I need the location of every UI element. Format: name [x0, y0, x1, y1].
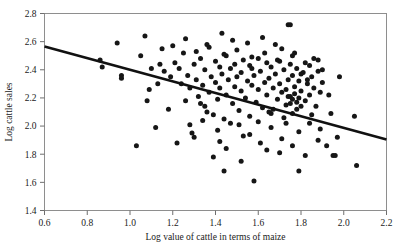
data-point	[290, 97, 295, 102]
data-point	[234, 48, 239, 53]
data-point	[275, 97, 280, 102]
data-point	[215, 128, 220, 133]
data-point	[333, 153, 338, 158]
y-axis-ticks	[40, 14, 45, 211]
data-point	[277, 150, 282, 155]
data-point	[228, 66, 233, 71]
data-point	[196, 94, 201, 99]
data-point	[284, 102, 289, 107]
data-point	[266, 110, 271, 115]
data-point	[247, 114, 252, 119]
data-point	[307, 93, 312, 98]
data-point	[279, 46, 284, 51]
data-point	[245, 79, 250, 84]
data-point	[264, 147, 269, 152]
data-point	[153, 125, 158, 130]
data-point	[311, 86, 316, 91]
data-point	[219, 31, 224, 36]
data-point	[170, 43, 175, 48]
data-point	[303, 98, 308, 103]
x-tick-label: 1.0	[124, 218, 136, 228]
data-point	[256, 119, 261, 124]
data-point	[262, 50, 267, 55]
data-point	[318, 90, 323, 95]
data-point	[269, 125, 274, 130]
data-point	[249, 66, 254, 71]
data-point	[324, 143, 329, 148]
data-point	[354, 163, 359, 168]
data-point	[251, 178, 256, 183]
data-point	[290, 143, 295, 148]
data-point	[142, 34, 147, 39]
data-point	[264, 60, 269, 65]
data-point	[194, 77, 199, 82]
data-point	[328, 111, 333, 116]
y-tick-label: 2.0	[25, 121, 37, 131]
data-point	[224, 146, 229, 151]
data-point	[204, 110, 209, 115]
data-point	[241, 133, 246, 138]
data-point	[230, 101, 235, 106]
data-point	[149, 66, 154, 71]
data-point	[313, 104, 318, 109]
data-point	[279, 136, 284, 141]
y-tick-label: 2.4	[25, 65, 37, 75]
data-point	[335, 135, 340, 140]
data-point	[245, 41, 250, 46]
data-point	[138, 53, 143, 58]
data-point	[200, 83, 205, 88]
data-point	[198, 101, 203, 106]
data-point	[277, 81, 282, 86]
scatter-plot-figure: 0.60.81.01.21.41.61.82.02.2 1.41.61.82.0…	[0, 0, 399, 250]
plot-canvas: 0.60.81.01.21.41.61.82.02.2 1.41.61.82.0…	[0, 0, 399, 250]
data-point	[181, 50, 186, 55]
data-point	[172, 60, 177, 65]
data-point	[258, 140, 263, 145]
y-tick-label: 1.4	[25, 206, 37, 216]
data-point	[239, 70, 244, 75]
data-point	[198, 56, 203, 61]
data-point	[217, 86, 222, 91]
data-point	[290, 73, 295, 78]
data-point	[183, 36, 188, 41]
data-point	[185, 73, 190, 78]
y-tick-label: 2.6	[25, 37, 37, 47]
data-point	[294, 107, 299, 112]
data-point	[226, 77, 231, 82]
data-point	[275, 57, 280, 62]
data-point	[337, 74, 342, 79]
x-axis-ticks	[45, 211, 387, 216]
data-point	[189, 131, 194, 136]
data-point	[258, 69, 263, 74]
data-point	[162, 69, 167, 74]
x-tick-label: 2.2	[381, 218, 393, 228]
data-point	[232, 84, 237, 89]
data-point	[266, 76, 271, 81]
data-point	[232, 62, 237, 67]
data-point	[213, 80, 218, 85]
x-tick-label: 1.6	[252, 218, 264, 228]
data-point	[211, 112, 216, 117]
data-point	[269, 64, 274, 69]
data-point	[309, 112, 314, 117]
y-axis-tick-labels: 1.41.61.82.02.22.42.62.8	[25, 9, 37, 216]
data-point	[320, 80, 325, 85]
x-tick-label: 1.4	[210, 218, 222, 228]
data-point	[307, 63, 312, 68]
data-point	[168, 74, 173, 79]
data-point	[119, 76, 124, 81]
data-point	[286, 94, 291, 99]
data-point	[292, 91, 297, 96]
data-point	[273, 72, 278, 77]
data-point	[183, 98, 188, 103]
data-point	[239, 88, 244, 93]
data-point	[309, 74, 314, 79]
data-point	[237, 108, 242, 113]
data-point	[202, 104, 207, 109]
data-point	[217, 139, 222, 144]
data-point	[299, 104, 304, 109]
x-axis-title: Log value of cattle in terms of maize	[145, 232, 285, 242]
data-point	[222, 52, 227, 57]
data-point	[202, 67, 207, 72]
data-point	[296, 95, 301, 100]
